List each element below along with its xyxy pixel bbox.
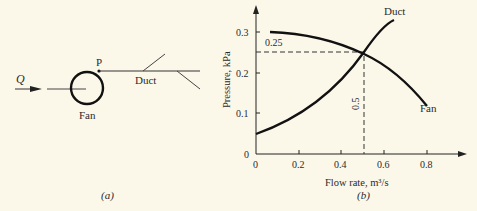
- y-tick-label: 0: [244, 149, 249, 160]
- x-tick-label: 0.8: [420, 159, 433, 170]
- y-axis-label: Pressure, kPa: [221, 51, 232, 108]
- guide-label-0-5: 0.5: [350, 98, 361, 111]
- x-tick-label: 0.2: [292, 159, 305, 170]
- x-axis-arrow-icon: [458, 151, 467, 157]
- panel-b-chart: 0.3 0.2 0.1 0 0 0.2 0.4 0.6 0.8 Pressure…: [221, 5, 467, 202]
- point-p-label: P: [96, 56, 102, 68]
- x-tick-label: 0.6: [377, 159, 390, 170]
- flow-arrow-icon: [30, 86, 42, 92]
- x-ticks: 0 0.2 0.4 0.6 0.8: [253, 150, 433, 170]
- y-tick-label: 0.2: [236, 68, 249, 79]
- fan-label: Fan: [79, 109, 96, 121]
- panel-a-schematic: Q P Duct Fan (a): [15, 54, 200, 202]
- x-tick-label: 0.4: [334, 159, 347, 170]
- x-axis-label: Flow rate, m³/s: [325, 177, 389, 188]
- duct-curve-label: Duct: [384, 5, 405, 17]
- fan-curve: [270, 32, 427, 106]
- guide-label-0-25: 0.25: [265, 37, 283, 48]
- fan-curve-label: Fan: [420, 102, 437, 114]
- y-tick-label: 0.3: [236, 27, 249, 38]
- duct-branch-down: [177, 71, 200, 89]
- y-tick-label: 0.1: [236, 108, 249, 119]
- panel-a-caption: (a): [101, 189, 114, 202]
- panel-b-caption: (b): [357, 189, 370, 202]
- duct-branch-up: [143, 54, 165, 71]
- duct-label: Duct: [135, 74, 156, 86]
- figure: Q P Duct Fan (a) 0.3 0.2 0.1 0: [0, 0, 477, 211]
- flow-label: Q: [16, 72, 25, 86]
- fan-circle: [71, 72, 103, 104]
- x-tick-label: 0: [253, 159, 258, 170]
- y-axis-arrow-icon: [253, 5, 259, 14]
